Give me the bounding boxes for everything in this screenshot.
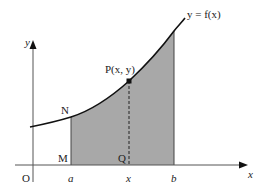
tick-x-label: x (125, 172, 131, 184)
y-axis-arrow-icon (30, 40, 37, 49)
x-axis-label: x (247, 168, 253, 180)
y-axis-label: y (24, 36, 30, 48)
point-p-label: P(x, y) (105, 63, 135, 76)
x-axis-arrow-icon (239, 162, 248, 169)
point-p-marker (127, 79, 132, 84)
point-n-label: N (61, 104, 69, 116)
point-m-label: M (58, 152, 68, 164)
curve-label: y = f(x) (187, 8, 221, 21)
tick-a-label: a (68, 172, 74, 184)
point-q-label: Q (118, 152, 126, 164)
tick-b-label: b (171, 172, 177, 184)
origin-label: O (22, 172, 30, 184)
area-under-curve-diagram: y = f(x) P(x, y) y x O N M Q a x b (0, 0, 268, 194)
